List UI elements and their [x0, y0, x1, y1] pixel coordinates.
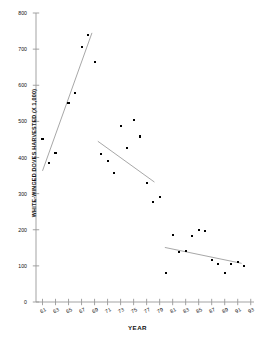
- data-point: [139, 135, 141, 137]
- y-tick-label: 700: [5, 46, 27, 52]
- data-point: [237, 261, 239, 263]
- data-point: [74, 92, 76, 94]
- data-point: [120, 125, 122, 127]
- data-point: [152, 201, 154, 203]
- y-tick-label: 400: [5, 155, 27, 161]
- data-point: [204, 230, 206, 232]
- data-point: [94, 61, 96, 63]
- data-point: [100, 153, 102, 155]
- data-point: [107, 160, 109, 162]
- data-point: [146, 182, 148, 184]
- data-point: [133, 119, 135, 121]
- x-axis-title: YEAR: [0, 324, 275, 331]
- chart-figure: 0100200300400500600700800 61636567697173…: [0, 0, 275, 345]
- data-point: [48, 162, 50, 164]
- data-point: [191, 235, 193, 237]
- data-point: [178, 251, 180, 253]
- y-tick-label: 300: [5, 191, 27, 197]
- data-point: [67, 102, 69, 104]
- data-point: [165, 272, 167, 274]
- y-tick-label: 500: [5, 118, 27, 124]
- y-tick-label: 600: [5, 82, 27, 88]
- y-tick-label: 100: [5, 263, 27, 269]
- data-point: [159, 196, 161, 198]
- y-tick-label: 800: [5, 10, 27, 16]
- scatter-plot-canvas: [0, 0, 275, 345]
- y-tick-label: 0: [5, 299, 27, 305]
- data-point: [54, 152, 56, 154]
- y-tick-label: 200: [5, 227, 27, 233]
- data-point: [41, 138, 43, 140]
- data-point: [243, 265, 245, 267]
- data-point: [113, 172, 115, 174]
- data-point: [230, 263, 232, 265]
- y-axis-title: WHITE-WINGED DOVES HARVESTED (X 1,000): [31, 53, 37, 253]
- data-point: [172, 234, 174, 236]
- data-point: [224, 272, 226, 274]
- data-point: [217, 263, 219, 265]
- data-point: [211, 259, 213, 261]
- data-point: [81, 46, 83, 48]
- data-point: [198, 229, 200, 231]
- trend-lines-group: [43, 33, 242, 263]
- data-point: [185, 250, 187, 252]
- data-point: [126, 147, 128, 149]
- data-point: [87, 34, 89, 36]
- trend-1980-1992: [165, 247, 242, 263]
